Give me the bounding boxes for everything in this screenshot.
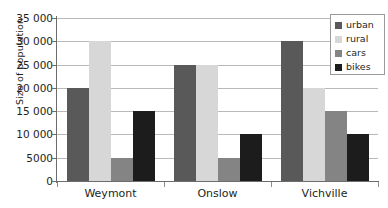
x-axis-tick-mark [271,182,272,187]
bar-chart: Size of population 0500010 00015 00020 0… [0,0,388,208]
x-axis-line [57,181,379,182]
y-axis-tick-label: 20 000 [7,83,53,93]
legend-label: rural [346,34,368,44]
legend-item-cars[interactable]: cars [335,46,384,60]
x-axis-tick-mark [378,182,379,187]
y-axis-tick-label: 0 [7,176,53,186]
bar-weymont-urban [67,88,89,181]
x-axis-tick-mark [57,182,58,187]
x-axis-category-label: Onslow [164,187,271,200]
legend-swatch-bikes-icon [335,64,342,71]
legend-label: urban [346,20,374,30]
bar-vichville-cars [325,111,347,181]
y-axis-tick-labels: 0500010 00015 00020 00025 00030 00035 00… [7,0,53,208]
y-axis-tick-mark [52,65,57,66]
y-axis-tick-mark [52,41,57,42]
legend-item-urban[interactable]: urban [335,18,384,32]
legend-label: cars [346,48,366,58]
bar-vichville-urban [281,41,303,181]
legend-swatch-cars-icon [335,50,342,57]
y-axis-tick-mark [52,134,57,135]
legend-swatch-rural-icon [335,36,342,43]
bar-weymont-cars [111,158,133,181]
bar-weymont-bikes [133,111,155,181]
bar-onslow-bikes [240,134,262,181]
bar-weymont-rural [89,41,111,181]
x-axis-category-label: Vichville [271,187,378,200]
bar-onslow-rural [196,65,218,181]
legend-label: bikes [346,62,371,72]
bar-vichville-bikes [347,134,369,181]
y-axis-tick-label: 30 000 [7,36,53,46]
x-axis-category-label: Weymont [57,187,164,200]
bar-onslow-urban [174,65,196,181]
y-axis-tick-label: 5000 [7,153,53,163]
y-axis-tick-mark [52,111,57,112]
y-axis-tick-label: 15 000 [7,106,53,116]
chart-legend: urbanruralcarsbikes [330,14,385,75]
y-axis-tick-mark [52,18,57,19]
title-remnant [45,0,225,1]
y-axis-tick-mark [52,158,57,159]
bar-onslow-cars [218,158,240,181]
y-axis-tick-mark [52,88,57,89]
y-axis-tick-label: 35 000 [7,13,53,23]
bar-vichville-rural [303,88,325,181]
legend-item-bikes[interactable]: bikes [335,60,384,74]
y-axis-tick-label: 25 000 [7,60,53,70]
x-axis-tick-mark [164,182,165,187]
y-axis-tick-label: 10 000 [7,129,53,139]
legend-item-rural[interactable]: rural [335,32,384,46]
legend-swatch-urban-icon [335,22,342,29]
